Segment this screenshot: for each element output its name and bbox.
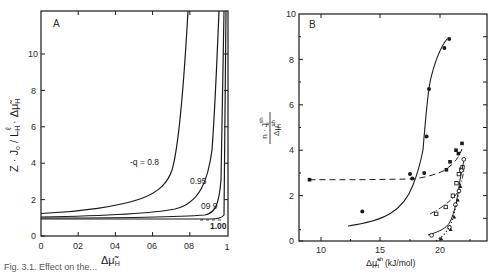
- panel-a-x-title: Δμ̃H: [101, 254, 120, 267]
- panel-a-xtick-02: 02: [73, 241, 83, 251]
- panel-b-x-title: Δμ̃shH(kJ/mol): [366, 256, 415, 269]
- panel-a-x-ticks: [78, 11, 190, 236]
- panel-a-label: A: [53, 18, 60, 29]
- curve-label-0.8: -q = 0.8: [130, 157, 159, 167]
- panel-a-xtick-06: 06: [147, 241, 157, 251]
- series2-dashed-line: [310, 149, 463, 180]
- panel-a-ytick-2: 2: [31, 195, 36, 205]
- svg-text:n · Jshe: n · Jshe: [258, 117, 270, 138]
- panel-b-xtick-10: 10: [316, 245, 326, 255]
- panel-a-xtick-1: 1: [224, 242, 229, 252]
- panel-a-ytick-6: 6: [31, 122, 36, 132]
- panel-a: 0 2 4 6 8 10 0 02 04 06 08 1 A -q = 0.8 …: [4, 11, 230, 267]
- figure-canvas: 0 2 4 6 8 10 0 02 04 06 08 1 A -q = 0.8 …: [0, 0, 498, 276]
- panel-b-ytick-0: 0: [289, 236, 294, 246]
- panel-a-ytick-4: 4: [31, 158, 36, 168]
- panel-b-ytick-2: 2: [289, 191, 294, 201]
- panel-b-ytick-8: 8: [289, 55, 294, 65]
- panel-b-ytick-6: 6: [289, 100, 294, 110]
- curve-q-0.99: [41, 11, 224, 218]
- panel-a-xtick-08: 08: [184, 241, 194, 251]
- panel-a-ytick-10: 10: [28, 49, 38, 59]
- panel-a-xtick-04: 04: [110, 241, 120, 251]
- panel-b-ytick-4: 4: [289, 145, 294, 155]
- curve-label-1.00: 1.00: [210, 221, 227, 231]
- series1-fit-line: [348, 39, 447, 226]
- curve-q-0.8: [41, 11, 188, 214]
- curve-q-1.00: [41, 11, 226, 219]
- curve-label-0.99: 09 9: [201, 201, 218, 211]
- panel-b-xtick-20: 20: [435, 245, 445, 255]
- panel-b-label: B: [309, 19, 316, 30]
- curve-q-0.95: [41, 11, 219, 217]
- panel-a-y-ticks: [41, 54, 228, 236]
- panel-a-y-title: Z · Jo / LHℓ · Δμ̃H: [4, 99, 21, 172]
- panel-b-frame: [299, 14, 487, 241]
- curve-label-0.95: 0.95: [190, 176, 207, 186]
- svg-text:Δμ̃shH: Δμ̃shH: [270, 120, 282, 136]
- series1-markers: [360, 37, 451, 214]
- panel-a-frame: [41, 11, 228, 236]
- panel-a-curves: [41, 11, 226, 219]
- panel-a-ytick-0: 0: [31, 231, 36, 241]
- panel-b-y-title: n · Jshe Δμ̃shH: [258, 112, 282, 144]
- figure-caption: Fig. 3.1. Effect on the...: [4, 262, 97, 272]
- panel-b: 0 2 4 6 8 10 10 15 20 B: [258, 9, 487, 269]
- panel-a-xtick-0: 0: [38, 241, 43, 251]
- series2-markers: [308, 142, 464, 182]
- panel-b-ytick-10: 10: [286, 9, 296, 19]
- panel-a-ytick-8: 8: [31, 86, 36, 96]
- panel-b-xtick-15: 15: [375, 245, 385, 255]
- panel-b-y-ticks: [299, 37, 487, 241]
- svg-text:Z · Jo / LHℓ · Δμ̃H: Z · Jo / LHℓ · Δμ̃H: [4, 99, 21, 172]
